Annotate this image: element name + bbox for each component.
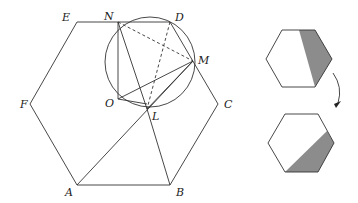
top-hexagon-shaded-region xyxy=(299,30,332,87)
label-D: D xyxy=(174,11,184,24)
segment-AM xyxy=(77,61,193,185)
label-O: O xyxy=(105,97,114,110)
label-C: C xyxy=(224,98,233,111)
bottom-hexagon-shaded-region xyxy=(285,131,334,172)
label-A: A xyxy=(64,186,73,199)
hexagon-abcdef xyxy=(30,22,218,185)
label-N: N xyxy=(103,10,114,23)
circle xyxy=(105,17,195,107)
curved-arrow xyxy=(333,73,341,108)
label-L: L xyxy=(151,110,159,123)
arrow-curve xyxy=(333,73,340,103)
bottom-small-hexagon xyxy=(268,114,334,172)
arrowhead-icon xyxy=(334,101,341,108)
label-B: B xyxy=(175,186,184,199)
top-small-hexagon xyxy=(266,30,332,87)
geometry-figure: E N D M F C O L A B xyxy=(0,0,358,203)
dashed-segments xyxy=(118,22,193,109)
label-M: M xyxy=(197,54,210,67)
dashed-DL xyxy=(147,22,170,109)
solid-segments xyxy=(77,22,193,185)
point-labels: E N D M F C O L A B xyxy=(19,10,233,199)
label-F: F xyxy=(19,98,28,111)
label-E: E xyxy=(61,11,70,24)
